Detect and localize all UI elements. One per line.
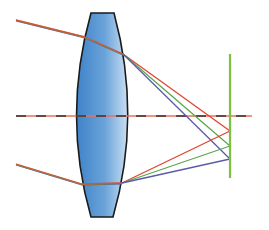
diagram-canvas [0,0,269,230]
upper-blue-ray [123,54,230,159]
upper-green-ray [123,54,230,146]
lens-diagram [0,0,269,230]
lower-red-ray [122,131,230,183]
upper-red-ray [123,54,230,131]
upper-refracted-rays [123,54,230,159]
lower-green-ray [122,146,230,183]
lens [77,13,128,217]
lower-refracted-rays [122,131,230,183]
lower-blue-ray [122,159,230,183]
